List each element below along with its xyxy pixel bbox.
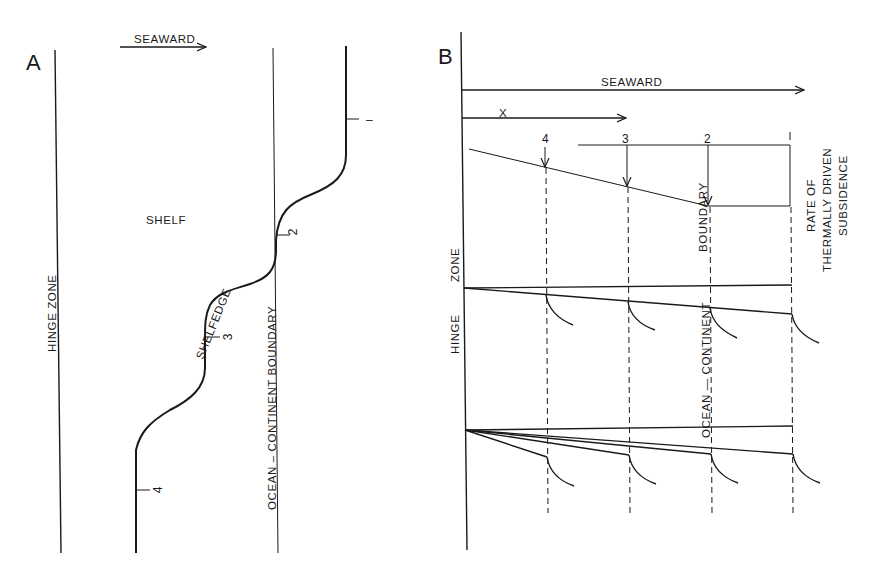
fault-curve-4 [546, 295, 573, 325]
hinge-label-b: HINGE [449, 315, 461, 354]
column-label-3: 3 [622, 132, 629, 146]
panel-b: B ZONE HINGE SEAWARD X 4 3 2 RATE OF THE… [438, 32, 849, 550]
marker-1-label: – [366, 113, 373, 127]
shelfedge-label: SHELFEDGE [194, 287, 233, 361]
dashed-column-3 [628, 187, 630, 513]
rate-label-line1: RATE OF [805, 179, 817, 232]
marker-3-label: 3 [221, 333, 235, 340]
panel-b-letter: B [438, 44, 453, 69]
shelf-label: SHELF [146, 214, 186, 226]
hinge-axis-b [461, 32, 467, 550]
fault-curve-lower-2 [711, 454, 738, 483]
fault-curve-lower-3 [629, 455, 656, 484]
fault-curve-1 [792, 314, 819, 343]
marker-4-label: 4 [151, 486, 165, 493]
panel-a-letter: A [26, 50, 41, 75]
stage-middle-profile [464, 288, 792, 314]
seaward-label-a: SEAWARD [134, 33, 196, 45]
stage-lower-profile-3 [465, 430, 629, 455]
ocb-label-upper: BOUNDARY [697, 182, 709, 252]
stage-lower [465, 426, 820, 486]
panel-a: A SEAWARD HINGE ZONE OCEAN – CONTINENT B… [26, 33, 373, 553]
dashed-column-1 [791, 207, 793, 513]
rate-label-line3: SUBSIDENCE [837, 155, 849, 236]
marker-2-label: 2 [286, 228, 300, 235]
shelf-profile-curve [136, 46, 346, 553]
column-label-2: 2 [704, 132, 711, 146]
stage-middle-reference-line [464, 285, 792, 288]
hinge-zone-label: HINGE ZONE [46, 274, 58, 352]
figure-canvas: A SEAWARD HINGE ZONE OCEAN – CONTINENT B… [0, 0, 879, 576]
ocb-label-a: OCEAN – CONTINENT BOUNDARY [266, 306, 278, 510]
zone-label-b: ZONE [449, 248, 461, 282]
stage-lower-profile-1 [465, 430, 793, 454]
fault-curve-lower-4 [547, 457, 574, 486]
fault-curve-2 [710, 308, 737, 338]
rate-label-line2: THERMALLY DRIVEN [821, 148, 833, 272]
rate-slope-line [469, 149, 708, 206]
fault-curve-lower-1 [793, 454, 820, 483]
column-label-4: 4 [542, 132, 549, 146]
ocb-label-lower: OCEAN — CONTINENT [700, 302, 712, 438]
stage-middle [464, 285, 819, 343]
seaward-label-b: SEAWARD [601, 76, 663, 88]
fault-curve-3 [628, 302, 655, 330]
x-label: X [499, 107, 507, 119]
